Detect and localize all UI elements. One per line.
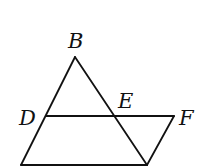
label-e: E	[117, 89, 133, 113]
label-b: B	[67, 29, 83, 53]
segment-bc	[75, 57, 147, 165]
geometry-diagram: B D E F	[0, 0, 202, 166]
label-f: F	[178, 106, 195, 130]
segment-fc	[147, 116, 174, 165]
label-d: D	[18, 106, 36, 130]
